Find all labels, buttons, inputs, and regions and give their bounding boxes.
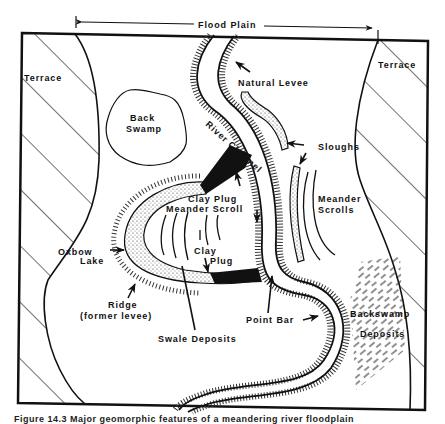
ridge-label-1: Ridge bbox=[108, 300, 138, 310]
slough-lower bbox=[290, 166, 304, 262]
meander-scrolls-label-2: Scrolls bbox=[318, 205, 354, 215]
river-channel bbox=[175, 35, 347, 412]
terrace-right-label: Terrace bbox=[378, 60, 416, 70]
floodplain-diagram: Flood Plain bbox=[0, 0, 445, 424]
clay-plug-upper-label: Clay Plug bbox=[188, 194, 237, 204]
back-swamp-label-2: Swamp bbox=[126, 124, 162, 134]
back-swamp-label-1: Back bbox=[130, 113, 155, 123]
clay-plug-lower-label-2: Plug bbox=[210, 256, 233, 266]
natural-levee-label: Natural Levee bbox=[238, 78, 309, 88]
meander-scroll-label: Meander Scroll bbox=[166, 204, 243, 214]
flood-plain-label: Flood Plain bbox=[198, 20, 256, 30]
meander-scrolls-label-1: Meander bbox=[318, 194, 361, 204]
point-bar-label: Point Bar bbox=[246, 315, 294, 325]
meander-scrolls-right bbox=[304, 170, 335, 260]
ridge-label-2: (former levee) bbox=[80, 311, 152, 321]
swale-deposits-label: Swale Deposits bbox=[158, 334, 237, 344]
sloughs-label: Sloughs bbox=[318, 142, 360, 152]
backswamp-deposits-label-2: Deposits bbox=[360, 329, 405, 339]
oxbow-lake-label-2: Lake bbox=[80, 256, 104, 266]
figure-caption: Figure 14.3 Major geomorphic features of… bbox=[14, 414, 354, 424]
terrace-left-label: Terrace bbox=[24, 73, 62, 83]
clay-plug-lower bbox=[210, 268, 262, 284]
backswamp-deposits-label-1: Backswamp bbox=[350, 309, 410, 319]
clay-plug-lower-label-1: Clay bbox=[194, 246, 217, 256]
backswamp-deposits bbox=[350, 256, 405, 390]
